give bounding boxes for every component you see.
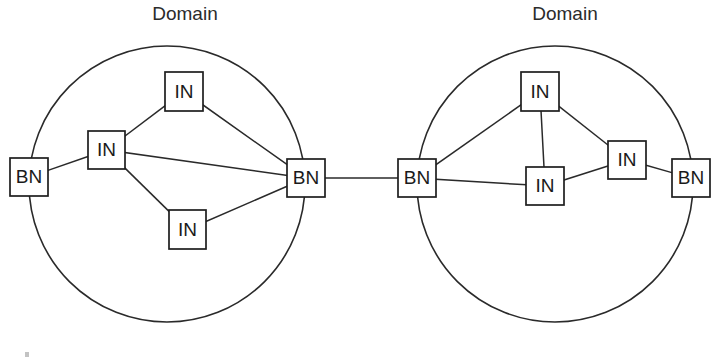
network-link bbox=[559, 106, 608, 145]
internal-node[interactable]: IN bbox=[521, 72, 559, 111]
network-link bbox=[125, 153, 287, 176]
scan-artifact-mark bbox=[25, 352, 29, 357]
border-node[interactable]: BN bbox=[287, 159, 325, 197]
network-link bbox=[436, 179, 526, 185]
node-label: IN bbox=[97, 139, 116, 160]
internal-node[interactable]: IN bbox=[169, 210, 206, 249]
network-link bbox=[564, 166, 608, 180]
nodes-layer: BNINININBNBNINININBN bbox=[10, 72, 710, 249]
links-layer bbox=[48, 105, 672, 222]
network-link bbox=[125, 168, 169, 211]
network-link bbox=[203, 105, 287, 165]
node-label: IN bbox=[536, 175, 555, 196]
network-diagram-canvas: BNINININBNBNINININBN DomainDomain bbox=[0, 0, 715, 363]
node-label: BN bbox=[293, 167, 319, 188]
network-link bbox=[206, 186, 287, 221]
network-link bbox=[48, 156, 88, 170]
internal-node[interactable]: IN bbox=[165, 72, 203, 111]
network-link bbox=[436, 105, 521, 165]
border-node[interactable]: BN bbox=[672, 159, 710, 197]
internal-node[interactable]: IN bbox=[608, 141, 646, 179]
node-label: IN bbox=[618, 149, 637, 170]
node-label: IN bbox=[531, 81, 550, 102]
node-label: BN bbox=[678, 167, 704, 188]
node-label: BN bbox=[16, 166, 42, 187]
border-node[interactable]: BN bbox=[10, 158, 48, 196]
network-domains-figure: BNINININBNBNINININBN DomainDomain bbox=[0, 0, 715, 363]
domain-title: Domain bbox=[152, 3, 217, 24]
node-label: IN bbox=[178, 219, 197, 240]
border-node[interactable]: BN bbox=[398, 159, 436, 197]
node-label: BN bbox=[404, 167, 430, 188]
domain-title: Domain bbox=[532, 3, 597, 24]
domain-titles-layer: DomainDomain bbox=[152, 3, 597, 24]
internal-node[interactable]: IN bbox=[526, 167, 564, 205]
internal-node[interactable]: IN bbox=[88, 131, 125, 169]
network-link bbox=[646, 165, 672, 172]
network-link bbox=[541, 111, 544, 167]
domain-circles-layer bbox=[29, 46, 693, 322]
node-label: IN bbox=[175, 81, 194, 102]
network-link bbox=[125, 106, 165, 136]
